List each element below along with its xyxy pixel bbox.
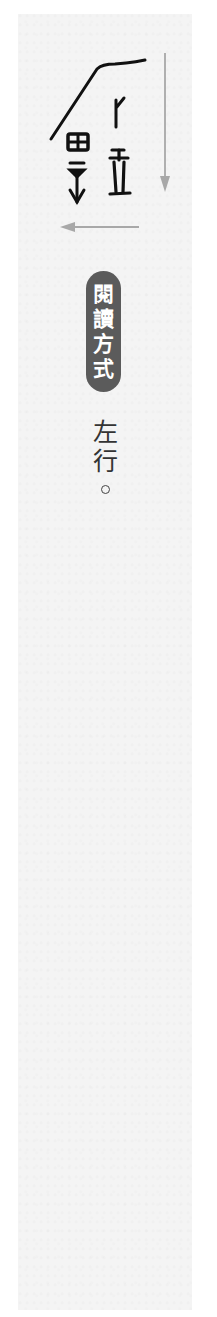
figure-glyph bbox=[110, 150, 130, 194]
badge-char: 讀 bbox=[93, 307, 114, 332]
reading-char: 行 bbox=[93, 447, 118, 476]
y-glyph bbox=[116, 98, 124, 127]
roof-stroke-glyph bbox=[51, 60, 145, 139]
left-arrow-icon bbox=[60, 222, 139, 232]
inscription-image bbox=[0, 0, 217, 250]
reading-direction-text: 左 行 bbox=[88, 418, 122, 494]
down-arrow-icon bbox=[160, 53, 170, 192]
field-glyph bbox=[68, 134, 88, 150]
period-mark bbox=[101, 485, 110, 494]
badge-char: 式 bbox=[93, 357, 114, 382]
badge-char: 方 bbox=[93, 332, 114, 357]
arrow-glyph bbox=[70, 163, 84, 202]
reading-method-badge: 閱 讀 方 式 bbox=[86, 271, 121, 392]
badge-char: 閱 bbox=[93, 282, 114, 307]
reading-char: 左 bbox=[93, 418, 118, 447]
